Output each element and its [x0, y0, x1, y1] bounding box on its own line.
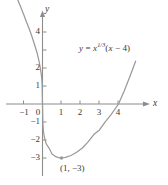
y-tick-label-neg3: −3	[22, 153, 40, 162]
x-axis	[6, 101, 150, 107]
x-axis-label: x	[153, 99, 157, 109]
equation-close-paren: )	[127, 43, 130, 53]
x-tick-label-4: 4	[110, 108, 126, 117]
y-tick-label-neg2: −2	[22, 135, 40, 144]
x-tick-label-3: 3	[91, 108, 107, 117]
y-axis-label: y	[45, 5, 49, 15]
equation-label: y = x1/3(x − 4)	[79, 44, 130, 53]
minimum-point-label: (1, −3)	[60, 164, 85, 173]
function-graph-figure: −1 0 1 2 3 4 4 2 1 −1 −2 −3 y x y = x1/3…	[0, 0, 168, 185]
y-tick-label-4: 4	[27, 27, 40, 36]
y-tick-label-1: 1	[27, 81, 40, 90]
y-tick-label-2: 2	[27, 63, 40, 72]
minimum-point-marker	[60, 156, 63, 159]
y-tick-label-neg1: −1	[22, 117, 40, 126]
y-axis	[40, 11, 47, 177]
x-tick-label-1: 1	[53, 108, 69, 117]
x-tick-label-2: 2	[72, 108, 88, 117]
